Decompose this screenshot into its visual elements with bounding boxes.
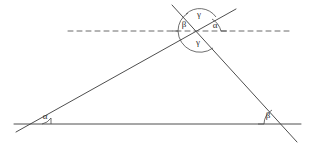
angle-label-gamma-lower: γ [195, 37, 200, 47]
angle-ticks-group [51, 31, 264, 124]
angle-label-alpha-base: α [43, 111, 48, 121]
angle-label-alpha-apex: α [213, 20, 218, 30]
geometry-canvas: αββγαγ [0, 0, 311, 146]
angle-labels-group: αββγαγ [43, 9, 271, 121]
angle-arc-gamma-upper [186, 9, 216, 17]
angle-label-beta-apex: β [182, 19, 187, 29]
solid-lines-group [14, 5, 301, 142]
angle-label-beta-base: β [266, 110, 271, 120]
angle-arcs-group [42, 9, 272, 124]
geometry-diagram: αββγαγ [0, 0, 311, 146]
angle-label-gamma-upper: γ [196, 9, 201, 19]
right-side-transversal [172, 5, 297, 142]
left-side-transversal [16, 9, 236, 132]
